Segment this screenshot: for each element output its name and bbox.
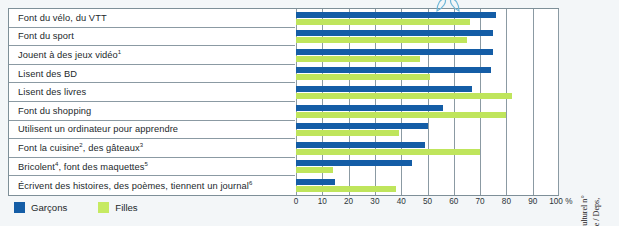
category-label-row: Font du vélo, du VTT (9, 9, 295, 28)
x-axis-tick-label: 20 (344, 197, 353, 206)
bar-garcons (296, 179, 335, 185)
bar-garcons (296, 30, 493, 36)
category-label-row: Font la cuisine2, des gâteaux3 (9, 139, 295, 158)
chart-figure: Font du vélo, du VTTFont du sportJouent … (0, 0, 619, 226)
bar-group (296, 102, 559, 121)
x-axis-tick-label: 60 (449, 197, 458, 206)
legend-swatch-garcons (14, 202, 25, 213)
category-label-row: Écrivent des histoires, des poèmes, tien… (9, 176, 295, 195)
bar-filles (296, 186, 396, 192)
bar-group (296, 176, 559, 195)
x-axis-tick-label: 0 (294, 197, 299, 206)
category-label-text: Écrivent des histoires, des poèmes, tien… (18, 181, 252, 191)
bar-filles (296, 112, 506, 118)
category-label-row: Lisent des BD (9, 65, 295, 84)
bar-filles (296, 74, 430, 80)
category-label-text: Lisent des livres (18, 87, 86, 97)
bar-garcons (296, 86, 472, 92)
x-axis-tick-label: 40 (397, 197, 406, 206)
category-label-text: Jouent à des jeux vidéo1 (18, 50, 121, 60)
category-label-row: Font du shopping (9, 102, 295, 121)
category-label-row: Utilisent un ordinateur pour apprendre (9, 121, 295, 140)
bar-garcons (296, 67, 491, 73)
x-axis-tick-label: 70 (476, 197, 485, 206)
bar-group (296, 139, 559, 158)
bar-filles (296, 149, 480, 155)
category-label-text: Font du vélo, du VTT (18, 13, 107, 23)
category-label-text: Font du shopping (18, 106, 91, 116)
bar-filles (296, 130, 399, 136)
bar-group (296, 158, 559, 177)
x-axis-ticks: 0102030405060708090100 % (296, 197, 559, 211)
bar-garcons (296, 105, 443, 111)
x-axis-tick-label: 80 (502, 197, 511, 206)
bar-group (296, 46, 559, 65)
x-axis-tick-label: 100 % (549, 197, 572, 206)
category-label-row: Lisent des livres (9, 83, 295, 102)
bar-filles (296, 37, 467, 43)
category-label-row: Jouent à des jeux vidéo1 (9, 46, 295, 65)
category-label-text: Bricolent4, font des maquettes5 (18, 162, 148, 172)
legend-item-filles: Filles (98, 202, 137, 213)
x-axis-tick-label: 50 (423, 197, 432, 206)
source-credit-text: © Les loisirs des 8–19 ans, Développemen… (579, 192, 614, 226)
category-label-text: Font du sport (18, 31, 74, 41)
x-axis-tick-label: 10 (318, 197, 327, 206)
bar-group (296, 9, 559, 28)
bar-filles (296, 56, 420, 62)
legend-label-filles: Filles (115, 202, 137, 213)
bar-filles (296, 167, 333, 173)
bar-filles (296, 93, 512, 99)
legend-item-garcons: Garçons (14, 202, 67, 213)
bar-filles (296, 19, 470, 25)
category-label-text: Lisent des BD (18, 69, 77, 79)
bar-group (296, 65, 559, 84)
category-label-text: Utilisent un ordinateur pour apprendre (18, 124, 178, 134)
bar-garcons (296, 49, 493, 55)
x-axis-tick-label: 90 (528, 197, 537, 206)
bar-garcons (296, 12, 496, 18)
category-label-text: Font la cuisine2, des gâteaux3 (18, 143, 143, 153)
legend-label-garcons: Garçons (31, 202, 67, 213)
category-label-column: Font du vélo, du VTTFont du sportJouent … (9, 9, 295, 195)
category-label-row: Font du sport (9, 28, 295, 47)
chart-legend: Garçons Filles (14, 202, 160, 213)
bar-garcons (296, 160, 412, 166)
bars-layer (296, 9, 559, 195)
bar-group (296, 121, 559, 140)
x-axis-tick-label: 30 (370, 197, 379, 206)
legend-swatch-filles (98, 202, 109, 213)
category-label-row: Bricolent4, font des maquettes5 (9, 158, 295, 177)
source-credit: © Les loisirs des 8–19 ans, Développemen… (566, 6, 618, 196)
bar-group (296, 83, 559, 102)
plot-area (296, 9, 559, 195)
bar-garcons (296, 123, 428, 129)
bar-group (296, 28, 559, 47)
bar-garcons (296, 142, 425, 148)
